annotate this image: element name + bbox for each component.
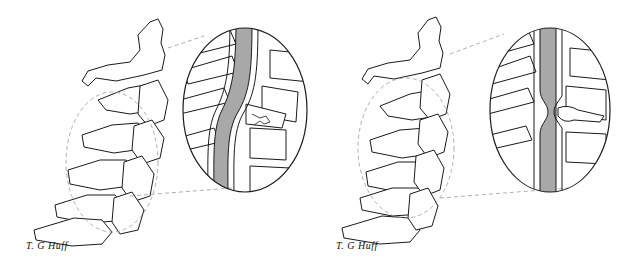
cervical-spine-drawing: [0, 0, 318, 265]
cervical-spine-drawing: [318, 0, 636, 265]
right-panel: T. G Huff: [318, 0, 636, 265]
artist-signature: T. G Huff: [26, 240, 68, 251]
artist-signature: T. G Huff: [336, 240, 378, 251]
left-panel: T. G Huff: [0, 0, 318, 265]
